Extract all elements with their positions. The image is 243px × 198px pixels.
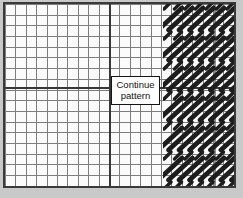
needlework-chart-page: Continue pattern	[0, 0, 243, 198]
continue-pattern-label-line1: Continue	[116, 80, 154, 91]
continue-pattern-label-box: Continue pattern	[111, 76, 160, 105]
continue-pattern-label-line2: pattern	[121, 91, 151, 102]
stitch-pattern-svg	[163, 4, 234, 186]
